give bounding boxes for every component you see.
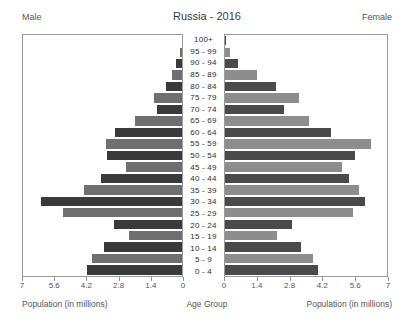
axis-tick-label: 7 xyxy=(20,281,24,290)
age-group-label: 30 - 34 xyxy=(183,196,224,208)
age-group-label: 95 - 99 xyxy=(183,46,224,58)
bar-row xyxy=(225,81,387,92)
female-bar-0-4 xyxy=(225,265,318,274)
axis-tick-label: 4.2 xyxy=(81,281,92,290)
male-bar-5-9 xyxy=(92,254,182,263)
bar-row xyxy=(225,207,387,218)
female-axis-title: Population (in millions) xyxy=(306,299,392,309)
bar-row xyxy=(225,196,387,207)
bar-row xyxy=(23,138,182,149)
bar-row xyxy=(225,161,387,172)
bar-row xyxy=(225,35,387,46)
bar-row xyxy=(225,46,387,57)
bar-row xyxy=(23,230,182,241)
bar-row xyxy=(225,173,387,184)
bar-row xyxy=(23,150,182,161)
female-bar-15-19 xyxy=(225,231,277,240)
bar-row xyxy=(225,184,387,195)
age-group-label: 55 - 59 xyxy=(183,138,224,150)
bar-row xyxy=(225,150,387,161)
axis-tick-label: 2.8 xyxy=(284,281,295,290)
male-plot-area xyxy=(22,34,183,277)
bar-row xyxy=(23,35,182,46)
age-group-label: 5 - 9 xyxy=(183,254,224,266)
male-bar-85-89 xyxy=(172,70,182,79)
male-bar-15-19 xyxy=(129,231,182,240)
male-bar-70-74 xyxy=(157,105,182,114)
male-bar-rows xyxy=(23,35,182,276)
bar-row xyxy=(225,69,387,80)
age-group-label: 20 - 24 xyxy=(183,219,224,231)
female-bar-70-74 xyxy=(225,105,284,114)
age-group-label: 35 - 39 xyxy=(183,185,224,197)
bar-row xyxy=(23,58,182,69)
female-bar-75-79 xyxy=(225,93,299,102)
male-bar-20-24 xyxy=(114,220,182,229)
bar-row xyxy=(23,81,182,92)
axis-tick-label: 0 xyxy=(181,281,185,290)
female-bar-100+ xyxy=(225,36,226,45)
bar-row xyxy=(23,69,182,80)
axis-tick-label: 0 xyxy=(222,281,226,290)
male-bar-65-69 xyxy=(135,116,182,125)
population-pyramid-chart: Male Female Russia - 2016 100+95 - 9990 … xyxy=(0,0,414,327)
age-group-label: 25 - 29 xyxy=(183,208,224,220)
female-bar-25-29 xyxy=(225,208,353,217)
male-bar-50-54 xyxy=(107,151,182,160)
female-bar-35-39 xyxy=(225,185,359,194)
bar-row xyxy=(23,173,182,184)
bar-row xyxy=(225,219,387,230)
male-bar-90-94 xyxy=(176,59,182,68)
age-group-label: 60 - 64 xyxy=(183,127,224,139)
bar-row xyxy=(225,104,387,115)
age-group-label: 10 - 14 xyxy=(183,242,224,254)
female-bar-90-94 xyxy=(225,59,238,68)
female-bar-10-14 xyxy=(225,242,301,251)
female-plot-area xyxy=(224,34,388,277)
bar-row xyxy=(23,161,182,172)
male-bar-75-79 xyxy=(154,93,182,102)
age-group-label: 100+ xyxy=(183,34,224,46)
axis-tick-label: 1.4 xyxy=(145,281,156,290)
age-group-label: 90 - 94 xyxy=(183,57,224,69)
bar-row xyxy=(225,241,387,252)
bar-row xyxy=(23,46,182,57)
male-bar-10-14 xyxy=(104,242,182,251)
female-bar-40-44 xyxy=(225,174,349,183)
axis-tick-label: 5.6 xyxy=(350,281,361,290)
bar-row xyxy=(23,264,182,275)
female-bar-55-59 xyxy=(225,139,371,148)
female-bar-80-84 xyxy=(225,82,276,91)
bar-row xyxy=(23,115,182,126)
male-bar-40-44 xyxy=(101,174,182,183)
male-bar-55-59 xyxy=(106,139,182,148)
axis-tick-label: 1.4 xyxy=(251,281,262,290)
male-bar-35-39 xyxy=(84,185,182,194)
bar-row xyxy=(23,207,182,218)
age-group-label: 70 - 74 xyxy=(183,103,224,115)
male-bar-80-84 xyxy=(166,82,182,91)
female-bar-20-24 xyxy=(225,220,292,229)
female-bar-45-49 xyxy=(225,162,342,171)
male-bar-0-4 xyxy=(87,265,182,274)
age-group-label: 50 - 54 xyxy=(183,150,224,162)
female-bar-60-64 xyxy=(225,128,331,137)
bar-row xyxy=(225,58,387,69)
bar-row xyxy=(225,127,387,138)
bar-row xyxy=(23,92,182,103)
female-bar-85-89 xyxy=(225,70,257,79)
axis-tick-label: 5.6 xyxy=(49,281,60,290)
bar-row xyxy=(225,253,387,264)
female-bar-rows xyxy=(225,35,387,276)
female-bar-5-9 xyxy=(225,254,313,263)
male-bar-25-29 xyxy=(63,208,182,217)
age-group-label: 0 - 4 xyxy=(183,266,224,278)
axis-tick-label: 2.8 xyxy=(113,281,124,290)
female-bar-65-69 xyxy=(225,116,309,125)
axis-tick-label: 7 xyxy=(386,281,390,290)
female-x-axis: 01.42.84.25.67 xyxy=(224,277,388,297)
chart-title: Russia - 2016 xyxy=(0,10,414,22)
female-bar-30-34 xyxy=(225,197,365,206)
male-bar-30-34 xyxy=(41,197,182,206)
male-bar-45-49 xyxy=(126,162,182,171)
